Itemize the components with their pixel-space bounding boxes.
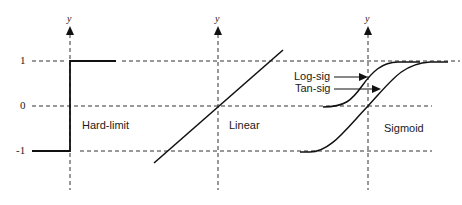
reference-lines bbox=[32, 61, 460, 151]
y-axes bbox=[70, 34, 368, 190]
arrow-up-icon bbox=[364, 26, 372, 35]
y-axis-label: y bbox=[365, 13, 369, 24]
hard-limit-label: Hard-limit bbox=[82, 119, 129, 131]
arrow-up-icon bbox=[214, 26, 222, 35]
tan-sig-label: Tan-sig bbox=[295, 82, 330, 94]
linear-label: Linear bbox=[229, 119, 260, 131]
arrow-right-icon bbox=[372, 85, 381, 93]
diagram-graphics bbox=[0, 0, 462, 205]
sigmoid-label: Sigmoid bbox=[384, 122, 424, 134]
tick-label-1: 1 bbox=[20, 54, 26, 66]
y-axis-label: y bbox=[215, 13, 219, 24]
tick-label-neg1: -1 bbox=[16, 144, 25, 156]
y-axis-label: y bbox=[67, 13, 71, 24]
arrow-up-icon bbox=[66, 26, 74, 35]
activation-functions-diagram: y y y 1 0 -1 Hard-limit Linear Sigmoid L… bbox=[0, 0, 462, 205]
tick-label-0: 0 bbox=[20, 99, 26, 111]
log-sig-label: Log-sig bbox=[294, 70, 330, 82]
axis-arrows bbox=[66, 26, 372, 35]
